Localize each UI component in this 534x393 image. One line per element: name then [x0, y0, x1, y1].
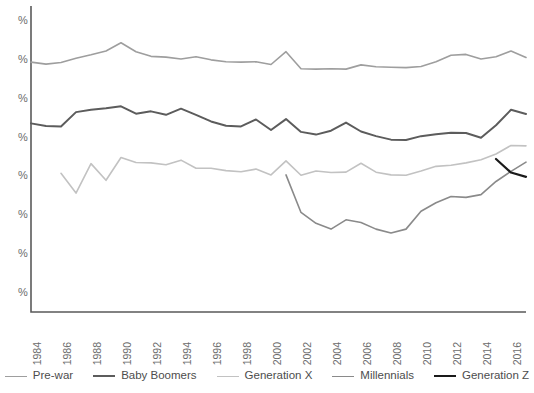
- legend-item-label: Millennials: [360, 370, 414, 382]
- series-line-generation-z: [496, 159, 526, 177]
- legend-swatch-icon: [434, 375, 456, 377]
- plot-area: %%%%%%%% 1984198619881990199219941996199…: [0, 0, 534, 320]
- legend-swatch-icon: [217, 376, 239, 377]
- x-axis-tick-label: 2014: [481, 300, 493, 340]
- x-axis-tick-label: 2016: [511, 300, 523, 340]
- legend-item-generation-z[interactable]: Generation Z: [434, 370, 529, 382]
- chart-legend: Pre-warBaby BoomersGeneration XMillennia…: [0, 366, 534, 386]
- y-axis-tick-label: %: [0, 169, 28, 181]
- x-axis-tick-label: 1988: [91, 300, 103, 340]
- line-chart: %%%%%%%% 1984198619881990199219941996199…: [0, 0, 534, 393]
- x-axis-tick-label: 1984: [31, 300, 43, 340]
- y-axis-tick-label: %: [0, 208, 28, 220]
- x-axis-tick-label: 1994: [181, 300, 193, 340]
- series-line-generation-x: [61, 145, 526, 193]
- legend-item-pre-war[interactable]: Pre-war: [5, 370, 73, 382]
- legend-item-label: Pre-war: [33, 370, 73, 382]
- legend-item-baby-boomers[interactable]: Baby Boomers: [93, 370, 196, 382]
- legend-item-generation-x[interactable]: Generation X: [217, 370, 313, 382]
- legend-swatch-icon: [93, 375, 115, 377]
- y-axis-tick-label: %: [0, 92, 28, 104]
- x-axis-tick-label: 2002: [301, 300, 313, 340]
- x-axis-tick-label: 1990: [121, 300, 133, 340]
- legend-item-millennials[interactable]: Millennials: [332, 370, 414, 382]
- x-axis-tick-label: 1998: [241, 300, 253, 340]
- series-line-pre-war: [31, 43, 526, 69]
- legend-item-label: Generation Z: [462, 370, 529, 382]
- x-axis-tick-label: 1986: [61, 300, 73, 340]
- y-axis-tick-label: %: [0, 14, 28, 26]
- x-axis-tick-label: 2006: [361, 300, 373, 340]
- y-axis-tick-label: %: [0, 247, 28, 259]
- legend-swatch-icon: [332, 376, 354, 377]
- y-axis-tick-label: %: [0, 131, 28, 143]
- legend-item-label: Baby Boomers: [121, 370, 196, 382]
- y-axis-tick-label: %: [0, 53, 28, 65]
- y-axis-tick-label: %: [0, 286, 28, 298]
- x-axis-tick-label: 1996: [211, 300, 223, 340]
- x-axis-tick-label: 2010: [421, 300, 433, 340]
- x-axis-tick-label: 2008: [391, 300, 403, 340]
- x-axis-tick-label: 1992: [151, 300, 163, 340]
- series-line-baby-boomers: [31, 106, 526, 140]
- x-axis-tick-label: 2004: [331, 300, 343, 340]
- legend-swatch-icon: [5, 376, 27, 377]
- plot-svg: [0, 0, 534, 320]
- x-axis-tick-label: 2000: [271, 300, 283, 340]
- series-line-millennials: [286, 162, 526, 233]
- x-axis-tick-label: 2012: [451, 300, 463, 340]
- legend-item-label: Generation X: [245, 370, 313, 382]
